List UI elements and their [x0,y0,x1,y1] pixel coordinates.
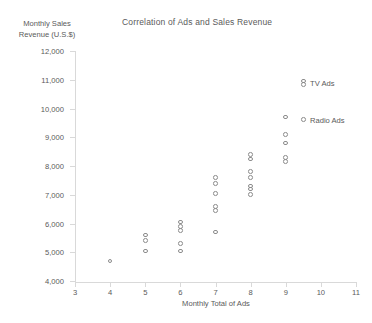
legend-marker-icon [300,115,308,126]
data-point [248,157,253,162]
y-tick-label: 4,000 [0,277,64,286]
data-point [283,159,288,164]
x-tick [145,282,146,287]
data-point [283,141,288,146]
data-point [248,169,253,174]
x-tick-label: 6 [168,288,192,297]
data-point [213,191,218,196]
data-point [143,233,148,238]
x-tick [216,282,217,287]
legend-label: TV Ads [310,79,334,88]
data-point [178,228,183,233]
y-tick-label: 5,000 [0,248,64,257]
data-point [283,115,288,120]
x-tick [180,282,181,287]
y-tick-label: 7,000 [0,190,64,199]
x-tick [321,282,322,287]
x-tick [251,282,252,287]
y-tick-label: 8,000 [0,162,64,171]
data-point [248,192,253,197]
y-tick-label: 10,000 [0,104,64,113]
x-tick-label: 8 [239,288,263,297]
legend-item-radio-ads[interactable]: Radio Ads [300,115,345,126]
x-tick-label: 3 [63,288,87,297]
x-tick-label: 9 [274,288,298,297]
y-axis-label-line2: Revenue (U.S.$) [8,30,86,41]
chart-title: Correlation of Ads and Sales Revenue [122,17,302,27]
data-point [213,175,218,180]
y-tick-label: 12,000 [0,47,64,56]
legend-item-tv-ads[interactable]: TV Ads [300,78,334,89]
legend-marker-icon [300,78,308,89]
x-tick-label: 7 [204,288,228,297]
x-tick-label: 4 [98,288,122,297]
x-tick [110,282,111,287]
y-tick-label: 9,000 [0,133,64,142]
data-point [213,181,218,186]
data-point [283,132,288,137]
x-tick-label: 5 [133,288,157,297]
y-axis-label: Monthly Sales Revenue (U.S.$) [8,19,86,40]
data-point [213,230,218,235]
x-tick [356,282,357,287]
data-point [143,249,148,254]
y-tick-label: 11,000 [0,75,64,84]
data-point [248,187,253,192]
x-tick [75,282,76,287]
data-point [178,241,183,246]
y-tick-label: 6,000 [0,219,64,228]
x-tick-label: 10 [309,288,333,297]
x-axis-label: Monthly Total of Ads [75,299,357,308]
x-tick [286,282,287,287]
y-axis-label-line1: Monthly Sales [8,19,86,30]
data-point [178,249,183,254]
data-point [108,259,113,264]
chart-container: Correlation of Ads and Sales Revenue Mon… [0,0,372,323]
data-point [143,238,148,243]
data-point [248,175,253,180]
x-tick-label: 11 [344,288,368,297]
legend-label: Radio Ads [310,116,345,125]
data-point [213,208,218,213]
